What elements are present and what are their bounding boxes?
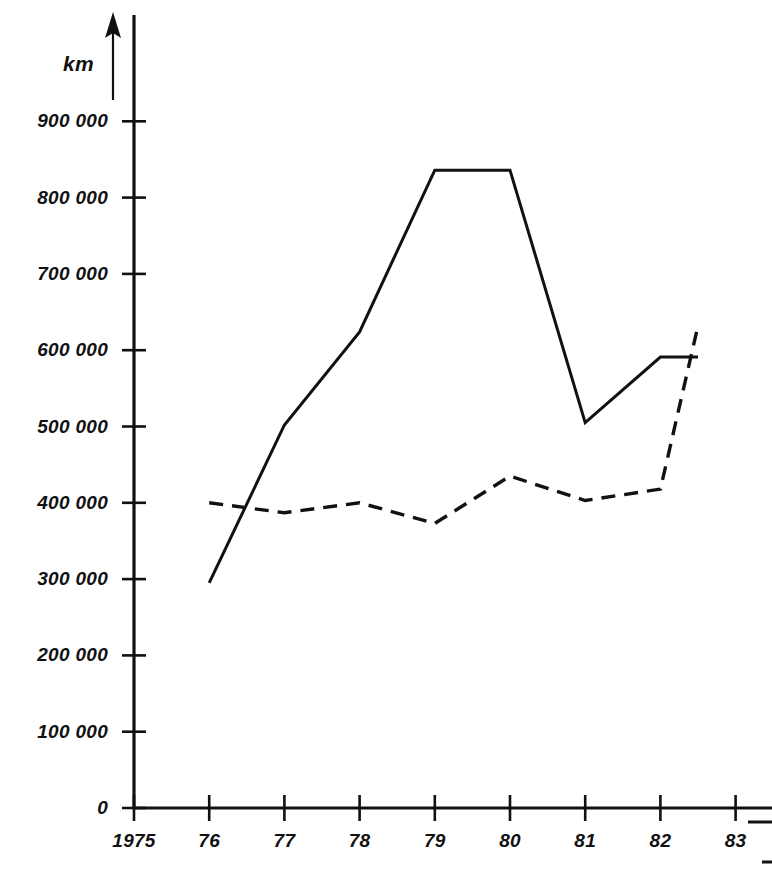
x-tick-label: 83 [725,830,747,852]
y-tick-label: 900 000 [0,110,108,132]
y-axis-unit-label: km [63,52,94,76]
y-tick-label: 0 [0,797,108,819]
y-tick-label: 800 000 [0,187,108,209]
x-tick-label: 82 [650,830,672,852]
x-tick-label: 78 [349,830,371,852]
series-line-solid [209,170,698,583]
x-tick-label: 80 [499,830,521,852]
x-tick-label: 81 [574,830,596,852]
series-line-dashed [209,326,698,524]
x-tick-label: 76 [198,830,220,852]
chart-canvas [0,0,772,881]
y-axis-arrow [105,12,121,100]
x-tick-label: 1975 [112,830,155,852]
y-tick-label: 100 000 [0,721,108,743]
y-tick-label: 500 000 [0,416,108,438]
x-tick-label: 79 [424,830,446,852]
x-tick-label: 77 [274,830,296,852]
axes-group [134,15,772,808]
y-tick-label: 600 000 [0,339,108,361]
series-group [209,170,698,583]
y-tick-label: 200 000 [0,644,108,666]
line-chart: km 900 000800 000700 000600 000500 00040… [0,0,772,881]
y-tick-label: 300 000 [0,568,108,590]
y-tick-label: 400 000 [0,492,108,514]
y-tick-label: 700 000 [0,263,108,285]
